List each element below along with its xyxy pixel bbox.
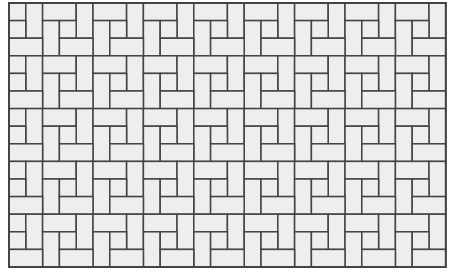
- tile-horizontal-rect: [311, 197, 345, 215]
- tile-square: [362, 126, 379, 144]
- tile-vertical-rect: [295, 232, 312, 267]
- tile-vertical-rect: [127, 214, 144, 249]
- tile-vertical-rect: [76, 161, 93, 196]
- tile-horizontal-rect: [211, 197, 245, 215]
- tile-vertical-rect: [227, 161, 244, 196]
- tile-vertical-rect: [143, 73, 160, 108]
- tile-square: [160, 126, 177, 144]
- tile-vertical-rect: [429, 214, 446, 249]
- tile-horizontal-rect: [311, 38, 345, 56]
- tile-horizontal-rect: [143, 161, 177, 179]
- tile-horizontal-rect: [261, 91, 295, 109]
- tile-horizontal-rect: [395, 214, 429, 232]
- tile-vertical-rect: [395, 179, 412, 214]
- tile-vertical-rect: [278, 214, 295, 249]
- tile-horizontal-rect: [295, 109, 329, 127]
- tile-horizontal-rect: [261, 249, 295, 267]
- tile-vertical-rect: [26, 214, 43, 249]
- tile-square: [311, 73, 328, 91]
- tile-square: [9, 73, 26, 91]
- tile-vertical-rect: [244, 21, 261, 56]
- tile-vertical-rect: [227, 214, 244, 249]
- tile-horizontal-rect: [244, 161, 278, 179]
- tile-vertical-rect: [244, 126, 261, 161]
- tile-vertical-rect: [278, 56, 295, 91]
- tile-vertical-rect: [93, 232, 110, 267]
- tile-square: [160, 21, 177, 39]
- tile-vertical-rect: [194, 179, 211, 214]
- tile-vertical-rect: [395, 21, 412, 56]
- tile-horizontal-rect: [362, 38, 396, 56]
- tile-vertical-rect: [278, 161, 295, 196]
- tile-horizontal-rect: [9, 249, 43, 267]
- tile-square: [160, 179, 177, 197]
- tile-square: [412, 232, 429, 250]
- tile-horizontal-rect: [194, 161, 228, 179]
- tile-horizontal-rect: [93, 214, 127, 232]
- tile-vertical-rect: [143, 126, 160, 161]
- tile-vertical-rect: [395, 73, 412, 108]
- tile-horizontal-rect: [110, 144, 144, 162]
- tile-vertical-rect: [395, 126, 412, 161]
- tile-square: [9, 126, 26, 144]
- tile-square: [311, 179, 328, 197]
- tile-square: [261, 126, 278, 144]
- tile-vertical-rect: [379, 56, 396, 91]
- tile-horizontal-rect: [9, 197, 43, 215]
- tile-pattern: [0, 0, 451, 279]
- tile-vertical-rect: [295, 21, 312, 56]
- tile-square: [412, 21, 429, 39]
- tile-vertical-rect: [295, 126, 312, 161]
- tile-horizontal-rect: [211, 91, 245, 109]
- tile-vertical-rect: [127, 3, 144, 38]
- tile-vertical-rect: [328, 56, 345, 91]
- tile-square: [160, 73, 177, 91]
- tile-horizontal-rect: [395, 109, 429, 127]
- tile-square: [311, 232, 328, 250]
- tile-vertical-rect: [345, 179, 362, 214]
- tile-horizontal-rect: [59, 144, 93, 162]
- tile-square: [362, 232, 379, 250]
- tile-horizontal-rect: [412, 249, 446, 267]
- tile-vertical-rect: [43, 21, 60, 56]
- tile-vertical-rect: [93, 21, 110, 56]
- tile-horizontal-rect: [345, 109, 379, 127]
- tile-vertical-rect: [244, 232, 261, 267]
- tile-vertical-rect: [43, 126, 60, 161]
- tile-vertical-rect: [127, 161, 144, 196]
- tile-square: [160, 232, 177, 250]
- tile-vertical-rect: [328, 161, 345, 196]
- tile-horizontal-rect: [93, 109, 127, 127]
- tile-square: [211, 179, 228, 197]
- tile-square: [110, 126, 127, 144]
- tile-vertical-rect: [194, 232, 211, 267]
- tile-horizontal-rect: [43, 56, 77, 74]
- tile-horizontal-rect: [143, 3, 177, 21]
- tile-square: [9, 161, 26, 179]
- tile-horizontal-rect: [194, 109, 228, 127]
- tile-horizontal-rect: [143, 56, 177, 74]
- tile-vertical-rect: [345, 232, 362, 267]
- tile-vertical-rect: [429, 56, 446, 91]
- tile-vertical-rect: [395, 232, 412, 267]
- tile-square: [211, 232, 228, 250]
- tile-vertical-rect: [127, 109, 144, 144]
- tile-horizontal-rect: [345, 214, 379, 232]
- tile-horizontal-rect: [412, 91, 446, 109]
- tile-square: [59, 73, 76, 91]
- tile-vertical-rect: [227, 3, 244, 38]
- tile-horizontal-rect: [211, 249, 245, 267]
- tile-vertical-rect: [26, 56, 43, 91]
- tile-horizontal-rect: [110, 249, 144, 267]
- tile-horizontal-rect: [160, 197, 194, 215]
- tile-vertical-rect: [177, 3, 194, 38]
- tile-horizontal-rect: [43, 3, 77, 21]
- tile-square: [9, 3, 26, 21]
- tile-square: [9, 109, 26, 127]
- tile-square: [110, 232, 127, 250]
- tile-square: [261, 73, 278, 91]
- tile-square: [261, 179, 278, 197]
- tile-horizontal-rect: [295, 56, 329, 74]
- tile-vertical-rect: [76, 3, 93, 38]
- tile-square: [412, 179, 429, 197]
